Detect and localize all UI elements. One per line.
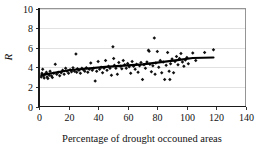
y-tick-label-6: 6 — [28, 43, 33, 54]
x-tick-label-120: 120 — [209, 112, 224, 123]
y-tick-label-4: 4 — [28, 62, 33, 73]
y-tick-label-0: 0 — [28, 102, 33, 113]
chart-canvas: 0246810 020406080100120140 Percentage of… — [0, 0, 262, 149]
y-tick-label-2: 2 — [28, 82, 33, 93]
x-tick-label-40: 40 — [94, 112, 104, 123]
x-tick-label-20: 20 — [65, 112, 75, 123]
x-tick-label-80: 80 — [153, 112, 163, 123]
y-axis-title: R — [2, 53, 14, 61]
x-tick-label-60: 60 — [124, 112, 134, 123]
x-axis-title: Percentage of drought occouned areas — [62, 133, 222, 144]
y-tick-label-10: 10 — [23, 4, 33, 15]
x-tick-label-140: 140 — [239, 112, 254, 123]
x-tick-label-0: 0 — [37, 112, 42, 123]
x-tick-label-100: 100 — [180, 112, 195, 123]
y-tick-label-8: 8 — [28, 23, 33, 34]
scatter-plot-figure: 0246810 020406080100120140 Percentage of… — [0, 0, 262, 149]
